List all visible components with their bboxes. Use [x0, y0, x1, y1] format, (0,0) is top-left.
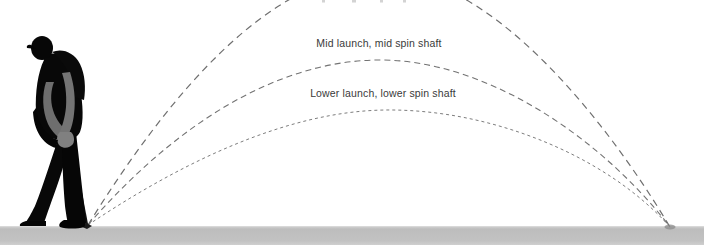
golfer-trail-shoe [20, 221, 46, 226]
ground-surface [0, 226, 704, 245]
label-mid-launch: Mid launch, mid spin shaft [316, 37, 441, 49]
label-lower-launch: Lower launch, lower spin shaft [310, 87, 456, 99]
golf-trajectory-illustration: Mid launch, mid spin shaft Lower launch,… [0, 0, 704, 251]
illustration-canvas: Mid launch, mid spin shaft Lower launch,… [0, 0, 704, 251]
ground-top-edge [0, 226, 704, 227]
ground-band [0, 226, 704, 251]
ground-lower-margin [0, 245, 704, 251]
golfer-lead-shoe [59, 220, 85, 229]
golfer-neck [44, 58, 56, 66]
landing-point [665, 224, 676, 229]
golfer-hands [57, 132, 74, 148]
